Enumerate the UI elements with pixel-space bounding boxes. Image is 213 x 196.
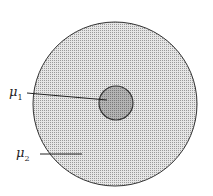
mu1-label: μ1	[9, 85, 23, 102]
concentric-regions-diagram	[0, 0, 213, 196]
inner-circle	[99, 86, 133, 120]
mu2-label: μ2	[16, 146, 30, 163]
